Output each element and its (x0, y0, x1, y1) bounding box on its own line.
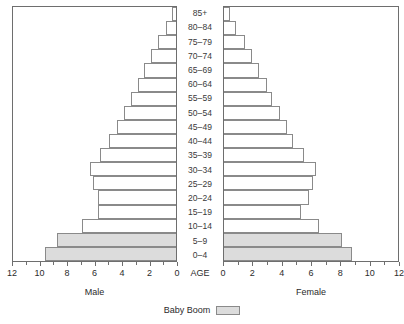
bar-row (224, 49, 398, 63)
bar-male-15-19[interactable] (98, 205, 177, 219)
bar-male-50-54[interactable] (124, 106, 177, 120)
female-axis-title: Female (223, 287, 399, 297)
age-label-50-54: 50–54 (177, 106, 223, 120)
bar-female-55-59[interactable] (223, 92, 272, 106)
age-label-25-29: 25–29 (177, 177, 223, 191)
bar-row (13, 49, 176, 63)
bar-female-10-14[interactable] (223, 219, 319, 233)
tick-label-8: 8 (64, 268, 69, 278)
bar-female-75-79[interactable] (223, 35, 245, 49)
bar-row (224, 205, 398, 219)
age-label-75-79: 75–79 (177, 34, 223, 48)
tick-label-6: 6 (308, 268, 313, 278)
age-label-15-19: 15–19 (177, 205, 223, 219)
bar-male-65-69[interactable] (144, 63, 177, 77)
male-x-axis: 024681012 (12, 262, 177, 284)
tick-12 (399, 262, 400, 266)
tick-11 (26, 262, 27, 265)
bar-female-20-24[interactable] (223, 190, 309, 204)
bar-male-10-14[interactable] (82, 219, 177, 233)
tick-3 (136, 262, 137, 265)
bar-male-20-24[interactable] (98, 190, 177, 204)
bar-male-25-29[interactable] (93, 176, 177, 190)
bar-row (13, 233, 176, 247)
age-label-65-69: 65–69 (177, 63, 223, 77)
bar-row (13, 63, 176, 77)
male-bar-rows (13, 7, 176, 261)
bar-female-25-29[interactable] (223, 176, 313, 190)
bar-row (224, 247, 398, 261)
bar-row (13, 106, 176, 120)
bar-row (13, 176, 176, 190)
tick-2 (252, 262, 253, 266)
bar-female-0-4[interactable] (223, 247, 352, 261)
tick-4 (122, 262, 123, 266)
bar-male-0-4[interactable] (45, 247, 177, 261)
age-label-55-59: 55–59 (177, 91, 223, 105)
legend-swatch-baby-boom (216, 306, 240, 315)
chart-legend: Baby Boom (0, 305, 404, 315)
age-label-0-4: 0–4 (177, 248, 223, 262)
tick-7 (326, 262, 327, 265)
bar-male-45-49[interactable] (117, 120, 177, 134)
bar-row (224, 106, 398, 120)
tick-11 (384, 262, 385, 265)
bar-male-80-84[interactable] (166, 21, 177, 35)
bar-female-15-19[interactable] (223, 205, 301, 219)
tick-5 (108, 262, 109, 265)
tick-5 (296, 262, 297, 265)
bar-male-55-59[interactable] (131, 92, 177, 106)
tick-6 (95, 262, 96, 266)
age-label-40-44: 40–44 (177, 134, 223, 148)
age-label-60-64: 60–64 (177, 77, 223, 91)
bar-female-30-34[interactable] (223, 162, 316, 176)
bar-male-75-79[interactable] (158, 35, 177, 49)
bar-male-5-9[interactable] (57, 233, 177, 247)
tick-8 (67, 262, 68, 266)
tick-12 (12, 262, 13, 266)
bar-row (224, 233, 398, 247)
tick-10 (370, 262, 371, 266)
tick-9 (53, 262, 54, 265)
bar-row (224, 78, 398, 92)
legend-label-baby-boom: Baby Boom (164, 305, 211, 315)
bar-female-5-9[interactable] (223, 233, 342, 247)
bar-female-35-39[interactable] (223, 148, 304, 162)
bar-row (224, 7, 398, 21)
age-label-30-34: 30–34 (177, 162, 223, 176)
tick-3 (267, 262, 268, 265)
bar-row (13, 219, 176, 233)
bar-male-35-39[interactable] (100, 148, 177, 162)
bar-male-70-74[interactable] (151, 49, 177, 63)
bar-row (224, 176, 398, 190)
bar-female-40-44[interactable] (223, 134, 293, 148)
bar-female-65-69[interactable] (223, 63, 259, 77)
age-label-45-49: 45–49 (177, 120, 223, 134)
bar-row (224, 92, 398, 106)
bar-row (224, 190, 398, 204)
bar-female-45-49[interactable] (223, 120, 287, 134)
bar-row (13, 190, 176, 204)
age-axis-label: AGE (177, 268, 223, 278)
bar-row (13, 78, 176, 92)
tick-label-8: 8 (338, 268, 343, 278)
bar-female-80-84[interactable] (223, 21, 236, 35)
tick-label-4: 4 (119, 268, 124, 278)
bar-female-85+[interactable] (223, 7, 230, 21)
bar-male-40-44[interactable] (109, 134, 177, 148)
tick-7 (81, 262, 82, 265)
bar-female-70-74[interactable] (223, 49, 252, 63)
bar-female-60-64[interactable] (223, 78, 267, 92)
bar-row (224, 134, 398, 148)
bar-female-50-54[interactable] (223, 106, 280, 120)
tick-0 (177, 262, 178, 266)
bar-row (224, 219, 398, 233)
bar-male-30-34[interactable] (90, 162, 177, 176)
tick-label-10: 10 (365, 268, 375, 278)
bar-male-60-64[interactable] (138, 78, 177, 92)
tick-10 (40, 262, 41, 266)
tick-label-12: 12 (394, 268, 404, 278)
age-label-5-9: 5–9 (177, 234, 223, 248)
tick-8 (340, 262, 341, 266)
male-plot-panel (12, 6, 177, 262)
